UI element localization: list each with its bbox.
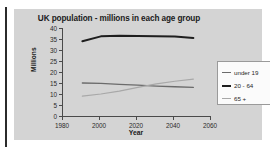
legend-label-under-19: under 19 (234, 69, 258, 76)
series-lines (62, 28, 210, 116)
x-tick-label: 2060 (203, 122, 217, 129)
y-tick-label: 5 (53, 102, 57, 109)
legend-item-under-19: under 19 (222, 66, 267, 79)
chart-panel: UK population - millions in each age gro… (14, 9, 262, 140)
y-tick-label: 0 (53, 113, 57, 120)
legend-label-65-plus: 65 + (234, 95, 246, 102)
x-axis-title: Year (62, 129, 210, 136)
x-tick (210, 116, 211, 120)
y-tick-label: 35 (50, 36, 57, 43)
x-tick-label: 2020 (129, 122, 143, 129)
x-tick (62, 116, 63, 120)
x-tick (136, 116, 137, 120)
y-tick-label: 10 (50, 91, 57, 98)
y-tick-label: 40 (50, 25, 57, 32)
x-tick (173, 116, 174, 120)
y-tick-label: 30 (50, 47, 57, 54)
x-tick-label: 1980 (55, 122, 69, 129)
x-tick (99, 116, 100, 120)
y-tick-label: 20 (50, 69, 57, 76)
legend-swatch-20-64 (222, 85, 231, 87)
legend-swatch-under-19 (222, 72, 231, 73)
y-tick-label: 15 (50, 80, 57, 87)
chart-title: UK population - millions in each age gro… (14, 14, 224, 23)
plot-area: 0510152025303540 19802000202020402060 (62, 28, 210, 116)
page-edge-rule (5, 7, 7, 147)
y-axis-title: Millions (30, 47, 37, 72)
series-line-under-19 (82, 83, 193, 87)
legend-item-20-64: 20 - 64 (222, 79, 267, 92)
x-tick-label: 2040 (166, 122, 180, 129)
y-tick-label: 25 (50, 58, 57, 65)
legend-item-65-plus: 65 + (222, 92, 267, 105)
series-line-65-+ (82, 79, 193, 96)
x-tick-label: 2000 (92, 122, 106, 129)
chart-legend: under 19 20 - 64 65 + (217, 61, 270, 105)
legend-label-20-64: 20 - 64 (234, 82, 253, 89)
series-line-20---64 (82, 36, 193, 42)
legend-swatch-65-plus (222, 98, 231, 99)
screenshot-root: UK population - millions in each age gro… (0, 0, 270, 155)
